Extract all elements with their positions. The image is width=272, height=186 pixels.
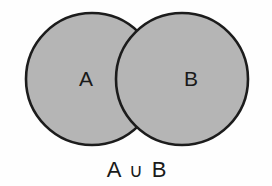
caption-right-operand: B [152,157,167,182]
caption-left-operand: A [107,157,122,182]
set-a-label: A [79,67,93,90]
venn-diagram-figure: A B A ∪ B [0,0,272,186]
union-symbol-icon: ∪ [129,160,143,181]
venn-diagram-canvas: A B A ∪ B [0,0,272,186]
set-b-circle [116,13,248,145]
set-b-label: B [184,67,198,90]
